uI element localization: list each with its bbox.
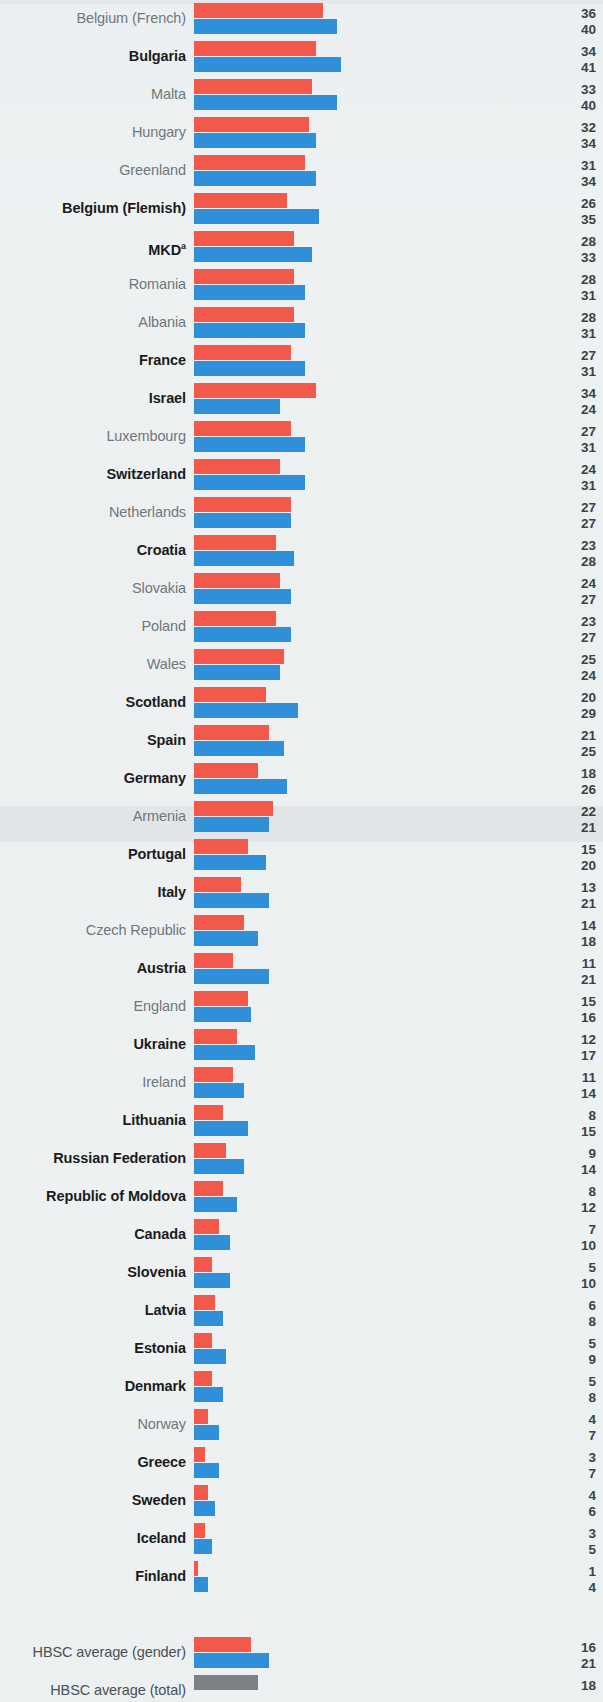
bar-girls — [194, 763, 258, 778]
bar-girls — [194, 687, 266, 702]
table-row: Finland14 — [0, 1558, 603, 1596]
bar-group — [194, 231, 312, 262]
country-label: Greece — [0, 1453, 186, 1472]
value-girls: 15 — [550, 842, 596, 858]
value-girls: 28 — [550, 310, 596, 326]
table-row: Netherlands2727 — [0, 494, 603, 532]
value-labels: 3640 — [550, 6, 596, 37]
country-label: Portugal — [0, 845, 186, 864]
country-label-text: Switzerland — [107, 466, 186, 482]
value-boys: 27 — [550, 592, 596, 608]
country-label: Denmark — [0, 1377, 186, 1396]
value-labels: 1621 — [550, 1640, 596, 1671]
value-boys: 20 — [550, 858, 596, 874]
table-row: Luxembourg2731 — [0, 418, 603, 456]
bar-group — [194, 79, 337, 110]
bar-group — [194, 1257, 230, 1288]
bar-boys — [194, 1653, 269, 1668]
bar-girls — [194, 79, 312, 94]
bar-boys — [194, 95, 337, 110]
value-labels: 3441 — [550, 44, 596, 75]
country-label-text: Denmark — [125, 1378, 186, 1394]
country-label-text: Russian Federation — [53, 1150, 186, 1166]
country-label: Ukraine — [0, 1035, 186, 1054]
value-girls: 6 — [550, 1298, 596, 1314]
bar-boys — [194, 893, 269, 908]
country-label: Bulgaria — [0, 47, 186, 66]
country-label: Spain — [0, 731, 186, 750]
value-boys: 33 — [550, 250, 596, 266]
country-label: Netherlands — [0, 503, 186, 522]
country-label-text: Slovenia — [127, 1264, 186, 1280]
value-boys: 40 — [550, 22, 596, 38]
bar-total — [194, 1675, 258, 1690]
value-girls: 14 — [550, 918, 596, 934]
country-label: Greenland — [0, 161, 186, 180]
bar-boys — [194, 171, 316, 186]
value-labels: 2731 — [550, 348, 596, 379]
bar-girls — [194, 877, 241, 892]
bar-girls — [194, 1143, 226, 1158]
country-label: Albania — [0, 313, 186, 332]
bar-group — [194, 459, 305, 490]
value-boys: 14 — [550, 1086, 596, 1102]
country-label: Italy — [0, 883, 186, 902]
hbsc-average-total-row: HBSC average (total)18 — [0, 1672, 603, 1702]
bar-boys — [194, 323, 305, 338]
value-labels: 46 — [550, 1488, 596, 1519]
value-boys: 27 — [550, 630, 596, 646]
country-label-text: Belgium (Flemish) — [62, 200, 186, 216]
bar-group — [194, 307, 305, 338]
bar-boys — [194, 285, 305, 300]
table-row: Belgium (Flemish)2635 — [0, 190, 603, 228]
country-label: Republic of Moldova — [0, 1187, 186, 1206]
bar-girls — [194, 459, 280, 474]
country-label: Belgium (Flemish) — [0, 199, 186, 218]
bar-girls — [194, 953, 233, 968]
table-row: Greenland3134 — [0, 152, 603, 190]
bar-group — [194, 725, 284, 756]
bar-boys — [194, 1349, 226, 1364]
value-boys: 16 — [550, 1010, 596, 1026]
bar-boys — [194, 1577, 208, 1592]
country-label-text: Ireland — [142, 1074, 186, 1090]
value-boys: 21 — [550, 820, 596, 836]
country-label-text: Germany — [124, 770, 186, 786]
value-girls: 3 — [550, 1526, 596, 1542]
bar-boys — [194, 931, 258, 946]
bar-girls — [194, 345, 291, 360]
bar-group — [194, 1181, 237, 1212]
country-label-text: Bulgaria — [129, 48, 186, 64]
country-label: Luxembourg — [0, 427, 186, 446]
value-labels: 2029 — [550, 690, 596, 721]
country-label: Belgium (French) — [0, 9, 186, 28]
table-row: Greece37 — [0, 1444, 603, 1482]
table-row: Romania2831 — [0, 266, 603, 304]
value-labels: 2431 — [550, 462, 596, 493]
bar-group — [194, 193, 319, 224]
bar-girls — [194, 383, 316, 398]
bar-girls — [194, 1409, 208, 1424]
table-row: MKDa2833 — [0, 228, 603, 266]
value-labels: 510 — [550, 1260, 596, 1291]
bar-group — [194, 611, 291, 642]
value-boys: 31 — [550, 364, 596, 380]
country-label: Estonia — [0, 1339, 186, 1358]
bar-group — [194, 345, 305, 376]
bar-group — [194, 383, 316, 414]
country-label: Iceland — [0, 1529, 186, 1548]
country-label-text: Canada — [134, 1226, 186, 1242]
table-row: Wales2524 — [0, 646, 603, 684]
country-label: Russian Federation — [0, 1149, 186, 1168]
value-girls: 7 — [550, 1222, 596, 1238]
bar-boys — [194, 513, 291, 528]
table-row: Belgium (French)3640 — [0, 0, 603, 38]
value-girls: 28 — [550, 234, 596, 250]
bar-girls — [194, 573, 280, 588]
value-girls: 24 — [550, 462, 596, 478]
value-labels: 1516 — [550, 994, 596, 1025]
value-girls: 22 — [550, 804, 596, 820]
country-label-text: Croatia — [137, 542, 186, 558]
value-girls: 33 — [550, 82, 596, 98]
bar-group — [194, 1219, 230, 1250]
